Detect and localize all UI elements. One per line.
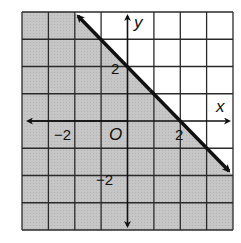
x-tick-2: 2 — [175, 126, 183, 143]
x-axis-label: x — [215, 97, 225, 116]
y-tick-neg2: −2 — [96, 171, 113, 188]
inequality-graph: y x O −2 2 2 −2 — [0, 0, 241, 243]
y-axis-label: y — [133, 13, 144, 32]
origin-label: O — [109, 125, 122, 144]
y-tick-2: 2 — [111, 60, 119, 77]
x-tick-neg2: −2 — [54, 126, 71, 143]
